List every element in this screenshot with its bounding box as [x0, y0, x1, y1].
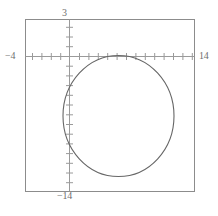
y-axis-max-label: 3 — [62, 8, 67, 18]
plot-canvas — [0, 0, 218, 216]
y-axis-min-label: −14 — [57, 191, 72, 201]
x-axis-min-label: −4 — [5, 51, 15, 61]
x-axis-max-label: 14 — [199, 51, 209, 61]
plot-frame — [26, 20, 195, 192]
graph-figure: 3 −14 −4 14 — [0, 0, 218, 216]
